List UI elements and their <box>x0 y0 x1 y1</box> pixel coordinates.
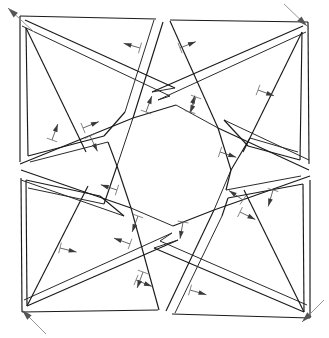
arrow-top-inner-left <box>124 43 142 54</box>
it-top-base-b <box>176 105 218 128</box>
arrow-bottom-mid-tick <box>138 270 148 274</box>
arrow-right-lower-head <box>268 198 273 206</box>
tl-band-inner <box>22 26 170 96</box>
tr-base-edge-inner <box>250 138 298 152</box>
arrow-bottom-inner-l-head <box>144 281 152 286</box>
arrow-center-lower-r-head <box>179 231 184 239</box>
tr-diagonal-a <box>243 32 302 152</box>
arrow-upper-right-b <box>256 85 274 96</box>
arrow-top-inner-left-head <box>124 43 132 48</box>
it-top-right-leg <box>170 21 218 128</box>
it-top-left-leg <box>133 22 163 118</box>
corner-triangle-bottom-right <box>154 176 307 312</box>
corner-arrow-top-left-outward <box>8 8 34 32</box>
arrow-left-mid-head <box>53 124 58 132</box>
inner-triangle-bottom <box>131 208 222 313</box>
it-right-top-leg <box>218 128 309 170</box>
normal-arrow-group <box>47 42 278 296</box>
it-right-top-leg-b <box>224 120 309 160</box>
tr-right-inner-edge <box>300 32 302 160</box>
arrow-center-upper-r <box>185 96 196 114</box>
arrow-lower-left-a <box>59 243 77 254</box>
it-top-base <box>133 105 176 118</box>
arrow-bottom-inner-r <box>188 285 206 296</box>
arrow-lower-right <box>238 207 256 219</box>
br-top-edge <box>228 184 303 198</box>
arrow-upper-right-a-tick <box>191 95 201 99</box>
arrow-lower-left-b <box>114 238 132 249</box>
arrow-top-inner-right-head <box>188 42 196 47</box>
strip-cross-ne-b <box>231 138 250 170</box>
bl-band-inner <box>24 233 172 300</box>
it-left-top-leg <box>20 118 133 164</box>
corner-triangle-bottom-left <box>24 180 178 306</box>
arrow-center-upper-l-head <box>147 96 152 104</box>
arrow-lower-left-b-head <box>114 238 122 243</box>
arrow-left-upper-tick <box>81 123 85 133</box>
strip-cross-sw-a <box>100 196 124 216</box>
corner-triangle-top-right <box>152 26 306 160</box>
arrow-left-mid-b-tick <box>85 134 95 139</box>
frame-edge-bottom-right <box>172 314 310 318</box>
strip-tl-join <box>158 96 170 100</box>
arrow-center-upper-l <box>141 96 152 114</box>
corner-arrow-group <box>8 4 324 334</box>
frame-edge-bottom-left <box>22 310 158 312</box>
frame-edge-top-left <box>20 16 156 19</box>
arrow-lower-left-b-tick <box>128 239 132 249</box>
tr-base-edge <box>248 146 300 160</box>
inner-triangle-right <box>214 120 310 210</box>
tr-band-inner <box>158 32 306 100</box>
arrow-center-upper-l-tick <box>141 110 151 114</box>
arrow-upper-right-a <box>190 95 201 113</box>
arrow-bottom-mid-head <box>137 280 142 288</box>
arrow-center-upper-r-head <box>190 96 195 104</box>
corner-arrow-bottom-right-inward <box>302 300 324 322</box>
strip-tessellation-diagram <box>0 0 329 338</box>
arrow-bottom-inner-r-head <box>198 290 206 295</box>
it-right-base <box>218 128 231 170</box>
arrow-center-right <box>218 147 236 157</box>
arrow-center-left-head <box>101 185 109 190</box>
tl-diagonal-a <box>26 28 86 152</box>
arrow-left-upper-head <box>91 122 99 127</box>
arrow-lower-right-tick <box>238 207 243 217</box>
bl-diagonal-a <box>27 186 88 306</box>
arrow-left-mid-tick <box>47 138 57 142</box>
arrow-center-lower-l-tick <box>133 214 143 218</box>
it-left-base <box>117 166 131 208</box>
arrow-lower-right-head <box>247 214 255 220</box>
br-diagonal-a <box>244 190 304 312</box>
strip-bl-join <box>160 233 172 241</box>
frame-edge-left-lower <box>21 178 22 312</box>
strip-cross-nw-b <box>108 142 117 166</box>
frame-edge-right-upper <box>308 22 309 164</box>
arrow-upper-right-b-tick <box>256 85 260 95</box>
arrow-right-lower <box>268 188 279 206</box>
corner-triangle-top-left <box>22 20 175 162</box>
crossing-strips <box>100 88 250 248</box>
arrow-center-right-head <box>228 153 236 158</box>
inner-triangle-top <box>125 20 218 128</box>
arrow-bottom-inner-l <box>134 275 152 286</box>
bl-left-inner-edge <box>26 180 27 306</box>
tr-band-outer <box>152 26 303 92</box>
outer-frame <box>20 16 310 318</box>
br-band-outer <box>154 248 304 312</box>
arrow-lower-left-a-head <box>68 248 76 253</box>
strip-cross-nw-a <box>104 112 125 136</box>
arrow-right-mid-head <box>229 190 237 196</box>
frame-edge-top-right <box>170 20 308 22</box>
br-right-inner-edge <box>303 184 304 312</box>
arrow-left-upper <box>81 122 99 133</box>
tl-left-inner-edge <box>26 28 28 156</box>
it-bot-right-leg <box>166 210 214 311</box>
arrow-left-mid <box>47 124 58 142</box>
corner-arrow-bottom-left-inward <box>22 310 46 334</box>
corner-arrow-top-right-inward <box>284 4 307 26</box>
it-left-base-b <box>117 118 133 166</box>
geometric-figure-canvas <box>0 0 329 338</box>
